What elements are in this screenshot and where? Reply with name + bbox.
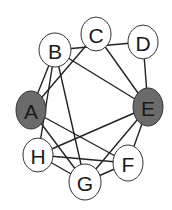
node-label: D xyxy=(135,32,150,55)
node-g: G xyxy=(69,164,101,200)
node-layer: ABCDEFGH xyxy=(16,17,163,200)
node-label: E xyxy=(141,97,155,120)
node-label: H xyxy=(30,145,45,168)
node-h: H xyxy=(23,138,53,172)
node-label: A xyxy=(24,100,38,123)
node-e: E xyxy=(133,88,163,126)
node-label: C xyxy=(88,24,103,47)
node-b: B xyxy=(39,33,71,67)
node-c: C xyxy=(81,17,111,51)
node-label: B xyxy=(48,40,62,63)
node-f: F xyxy=(113,145,143,181)
node-d: D xyxy=(128,25,158,59)
graph-diagram: ABCDEFGH xyxy=(0,0,172,210)
node-label: G xyxy=(77,172,93,195)
node-a: A xyxy=(16,91,46,129)
node-label: F xyxy=(122,153,135,176)
